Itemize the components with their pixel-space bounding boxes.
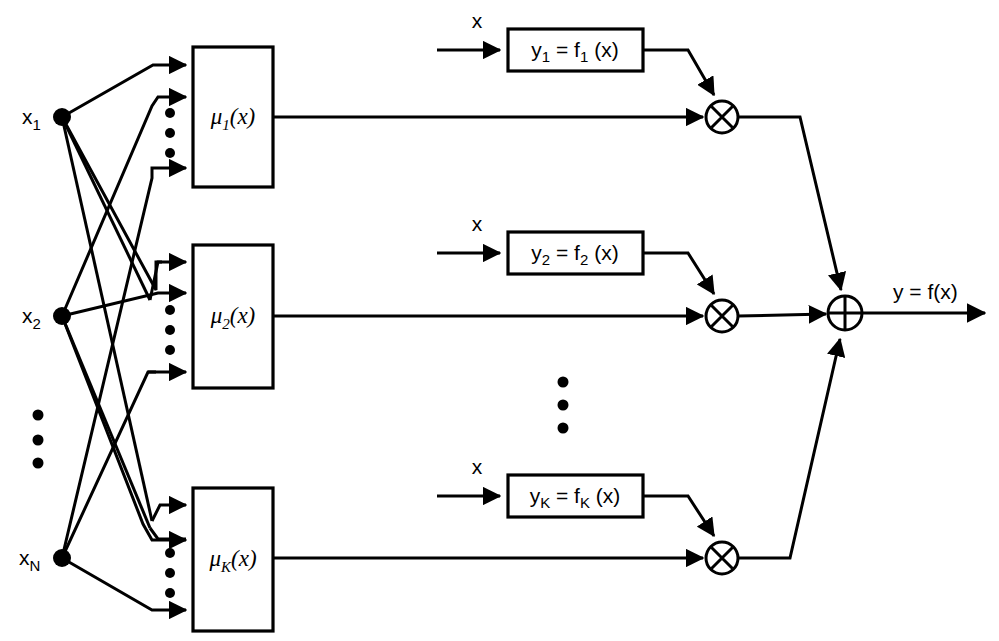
ellipsis-dot — [165, 325, 175, 335]
expert-block-fK[interactable]: yK = fK (x) — [508, 475, 643, 517]
multiply-to-sum-wires — [738, 117, 841, 558]
wire-xN-muK-arrow — [62, 558, 186, 610]
multiply-node-2 — [706, 300, 738, 332]
expert-ellipsis — [558, 377, 569, 434]
multiply-node-K — [706, 542, 738, 574]
membership-block-muK-label: μK(x) — [208, 546, 256, 575]
ellipsis-dot — [33, 458, 44, 469]
sum-node — [828, 296, 862, 330]
input-label-x2: x2 — [22, 304, 41, 332]
ellipsis-dot — [165, 568, 175, 578]
expert-block-f1[interactable]: y1 = f1 (x) — [508, 29, 643, 71]
ellipsis-dot — [165, 548, 175, 558]
membership-block-mu1[interactable]: μ1(x) — [193, 47, 273, 187]
expert-input-label-f1: x — [472, 9, 483, 32]
wire-xN-mu2-seg — [62, 372, 156, 558]
expert-block-f2[interactable]: y2 = f2 (x) — [508, 232, 643, 274]
input-node-x2 — [53, 307, 71, 325]
expert-input-labels: x x x — [472, 9, 483, 478]
ellipsis-dot — [165, 108, 175, 118]
wire-x1-muK-arrow — [152, 505, 186, 521]
wire-mult2-sum — [738, 314, 826, 316]
ellipsis-dot — [165, 128, 175, 138]
wire-fK-multK — [643, 496, 714, 536]
expert-to-multiply-wires — [643, 50, 714, 536]
input-ellipsis — [33, 410, 44, 469]
membership-input-ellipsis-muK — [165, 548, 175, 598]
ellipsis-dot — [165, 148, 175, 158]
ellipsis-dot — [558, 423, 569, 434]
membership-block-mu1-label: μ1(x) — [210, 104, 256, 133]
ellipsis-dot — [558, 377, 569, 388]
input-label-x1: x1 — [22, 105, 41, 133]
ellipsis-dot — [33, 435, 44, 446]
block-diagram: x1 x2 xN — [0, 0, 999, 641]
membership-block-muK[interactable]: μK(x) — [193, 488, 273, 631]
membership-block-mu2-label: μ2(x) — [210, 303, 256, 332]
membership-input-ellipsis-mu1 — [165, 108, 175, 158]
input-node-xN — [53, 549, 71, 567]
ellipsis-dot — [165, 588, 175, 598]
membership-block-mu2[interactable]: μ2(x) — [193, 245, 273, 388]
ellipsis-dot — [558, 400, 569, 411]
wire-mult1-sum — [738, 117, 841, 290]
expert-input-label-fK: x — [472, 455, 483, 478]
wire-x1-mu1-top — [62, 65, 162, 117]
ellipsis-dot — [165, 305, 175, 315]
multiply-node-1 — [706, 101, 738, 133]
input-nodes — [53, 108, 71, 567]
diagram-canvas: x1 x2 xN — [0, 0, 999, 641]
ellipsis-dot — [33, 410, 44, 421]
wire-multK-sum — [738, 339, 840, 558]
expert-input-label-f2: x — [472, 212, 483, 235]
output-label: y = f(x) — [893, 280, 958, 303]
input-labels: x1 x2 xN — [19, 105, 41, 574]
membership-input-ellipsis-mu2 — [165, 305, 175, 355]
input-node-x1 — [53, 108, 71, 126]
wire-x2-muK-mid — [150, 528, 186, 539]
input-label-xN: xN — [19, 546, 40, 574]
wire-f1-mult1 — [643, 50, 714, 95]
ellipsis-dot — [165, 345, 175, 355]
wire-f2-mult2 — [643, 253, 714, 294]
